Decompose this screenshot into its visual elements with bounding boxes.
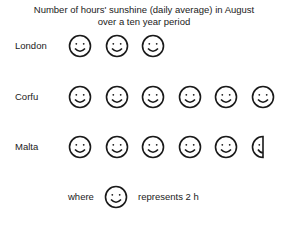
- legend-prefix: where: [68, 191, 94, 202]
- chart-title: Number of hours' sunshine (daily average…: [0, 4, 288, 28]
- smiley-face-icon: [68, 135, 92, 159]
- chart-title-line2: over a ten year period: [0, 16, 288, 28]
- row-label-london: London: [15, 40, 47, 51]
- smiley-face-icon: [68, 34, 92, 58]
- smiley-face-icon: [141, 135, 165, 159]
- smiley-face-icon: [214, 85, 238, 109]
- smiley-face-icon: [141, 34, 165, 58]
- smiley-face-icon: [251, 85, 275, 109]
- smiley-face-icon: [105, 135, 129, 159]
- chart-title-line1: Number of hours' sunshine (daily average…: [0, 4, 288, 16]
- smiley-face-icon: [105, 85, 129, 109]
- legend-suffix: represents 2 h: [138, 191, 199, 202]
- smiley-face-icon: [214, 135, 238, 159]
- smiley-face-icon: [104, 185, 128, 209]
- half-smiley-face-icon: [251, 135, 275, 159]
- smiley-face-icon: [68, 85, 92, 109]
- smiley-face-icon: [141, 85, 165, 109]
- row-label-corfu: Corfu: [15, 91, 38, 102]
- row-label-malta: Malta: [15, 141, 38, 152]
- smiley-face-icon: [105, 34, 129, 58]
- smiley-face-icon: [178, 135, 202, 159]
- smiley-face-icon: [178, 85, 202, 109]
